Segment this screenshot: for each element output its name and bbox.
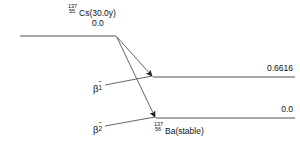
ground-level-energy-label: 0.0: [235, 105, 293, 114]
daughter-state: (stable): [175, 126, 203, 136]
daughter-symbol: Ba: [165, 126, 175, 136]
parent-atomic-number: 55: [69, 9, 75, 15]
parent-symbol: Cs: [79, 8, 89, 18]
beta-1-label: β − 1: [93, 81, 104, 94]
beta-2-leader-line: [105, 117, 155, 126]
daughter-az-stack: 137 56: [154, 123, 165, 134]
daughter-nuclide-label: 137 56 Ba(stable): [154, 123, 204, 136]
beta-2-indices: − 2: [98, 122, 104, 133]
beta-2-index: 2: [98, 126, 102, 133]
beta-1-leader-line: [105, 76, 152, 85]
decay-scheme-svg: [0, 0, 300, 150]
parent-energy-label: 0.0: [92, 19, 104, 28]
parent-half-life: (30.0y): [89, 8, 115, 18]
beta-1-transition-line: [117, 37, 153, 77]
decay-scheme-figure: 137 55 Cs(30.0y) 0.0 0.6616 0.0 β − 1 β …: [0, 0, 300, 150]
daughter-atomic-number: 56: [155, 127, 161, 133]
parent-nuclide-label: 137 55 Cs(30.0y): [68, 5, 116, 18]
excited-level-energy-label: 0.6616: [235, 64, 293, 73]
parent-az-stack: 137 55: [68, 5, 79, 16]
beta-1-indices: − 1: [98, 81, 104, 92]
beta-1-index: 1: [98, 85, 102, 92]
beta-2-label: β − 2: [93, 122, 104, 135]
